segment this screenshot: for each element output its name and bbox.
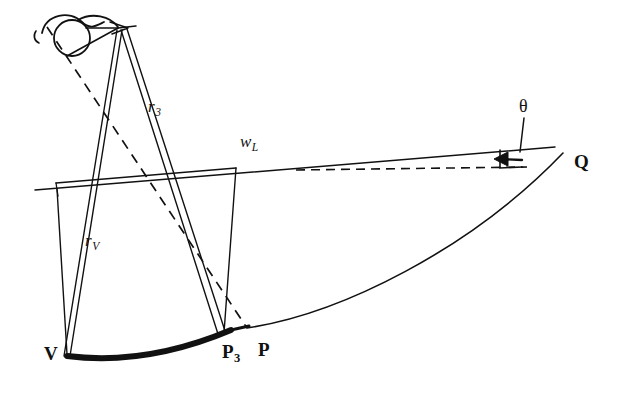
theta-arrow-head (494, 152, 508, 166)
label-r3-subscript: 3 (155, 106, 161, 119)
theta-leader-line (520, 118, 524, 152)
baseline-arc-V-to-P3 (67, 330, 231, 358)
label-r3: r3 (148, 98, 161, 119)
geometry-diagram: r3 rV wL θ V P3 P Q (0, 0, 617, 393)
apex-arc-outer-left (42, 15, 104, 33)
apex-circle (54, 20, 90, 56)
label-P3: P3 (222, 342, 240, 365)
apex-arc-tail (34, 31, 39, 43)
wedge-apex-to-V-right (70, 30, 122, 356)
label-rV-base: r (85, 231, 92, 250)
label-rV-subscript: V (92, 240, 100, 253)
curve-P-to-Q (247, 153, 563, 328)
apex-chord-lower (67, 28, 118, 56)
sloping-reference-line (35, 147, 555, 190)
label-wL-base: w (240, 132, 251, 151)
vertical-drop-to-V (57, 189, 67, 354)
dashed-horizontal-reference (296, 167, 527, 170)
wedge-apex-to-V-left (64, 30, 117, 356)
label-Q: Q (574, 152, 589, 171)
label-wL-subscript: L (251, 141, 258, 154)
label-r3-base: r (148, 97, 155, 116)
label-V: V (44, 344, 58, 363)
label-P3-base: P (222, 341, 234, 362)
label-P3-subscript: 3 (234, 351, 241, 365)
label-wL: wL (240, 133, 258, 154)
label-theta: θ (519, 97, 528, 115)
label-rV: rV (85, 232, 99, 253)
label-P: P (258, 340, 270, 359)
diagram-canvas (0, 0, 617, 393)
dashed-ray-to-P (47, 27, 247, 328)
vertical-drop-to-P3 (224, 168, 236, 333)
